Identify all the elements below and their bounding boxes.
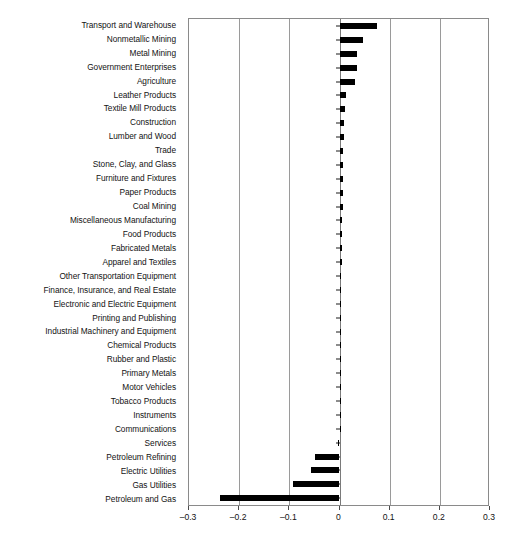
x-axis-tick [188, 506, 189, 510]
bar-row [189, 75, 488, 89]
bar-row [189, 47, 488, 61]
x-axis-tick [238, 506, 239, 510]
category-label: Finance, Insurance, and Real Estate [0, 283, 182, 297]
category-label: Government Enterprises [0, 60, 182, 74]
category-label: Apparel and Textiles [0, 255, 182, 269]
bar [340, 217, 343, 223]
bar-row [189, 394, 488, 408]
bar [340, 134, 344, 140]
bar-row [189, 408, 488, 422]
bar-row [189, 269, 488, 283]
category-label: Construction [0, 116, 182, 130]
bar [340, 287, 342, 293]
bar [340, 190, 343, 196]
bar-row [189, 144, 488, 158]
bar [340, 370, 341, 376]
category-label: Coal Mining [0, 199, 182, 213]
bar-row [189, 227, 488, 241]
category-label: Petroleum and Gas [0, 492, 182, 506]
bar [340, 245, 343, 251]
category-label: Petroleum Refining [0, 450, 182, 464]
bar [340, 120, 345, 126]
bar-row [189, 33, 488, 47]
bar-row [189, 116, 488, 130]
bar-row [189, 200, 488, 214]
category-label: Miscellaneous Manufacturing [0, 213, 182, 227]
bar-row [189, 186, 488, 200]
category-label: Tobacco Products [0, 394, 182, 408]
bar-row [189, 380, 488, 394]
category-label: Nonmetallic Mining [0, 32, 182, 46]
bar [340, 342, 341, 348]
category-label-column: Transport and WarehouseNonmetallic Minin… [0, 18, 182, 506]
category-label: Gas Utilities [0, 478, 182, 492]
bar-row [189, 283, 488, 297]
category-label: Services [0, 436, 182, 450]
category-label: Primary Metals [0, 366, 182, 380]
x-axis-tick-label: 0.2 [433, 512, 445, 522]
bar-row [189, 436, 488, 450]
bar-row [189, 88, 488, 102]
category-label: Motor Vehicles [0, 380, 182, 394]
bar-row [189, 366, 488, 380]
bar [340, 301, 342, 307]
bar [340, 65, 358, 71]
category-label: Stone, Clay, and Glass [0, 157, 182, 171]
category-label: Electronic and Electric Equipment [0, 297, 182, 311]
bar [340, 412, 341, 418]
bar [340, 204, 343, 210]
x-axis-tick-label: –0.3 [180, 512, 197, 522]
bar-row [189, 255, 488, 269]
bar-row [189, 213, 488, 227]
category-label: Communications [0, 422, 182, 436]
category-label: Transport and Warehouse [0, 18, 182, 32]
x-axis: –0.3–0.2–0.100.10.20.3 [188, 506, 489, 536]
category-label: Furniture and Fixtures [0, 171, 182, 185]
bar-row [189, 130, 488, 144]
bar-row [189, 297, 488, 311]
bar [340, 79, 355, 85]
category-label: Lumber and Wood [0, 130, 182, 144]
category-label: Rubber and Plastic [0, 353, 182, 367]
bars-layer [189, 19, 488, 505]
bar-row [189, 422, 488, 436]
bar-row [189, 61, 488, 75]
category-label: Metal Mining [0, 46, 182, 60]
category-label: Textile Mill Products [0, 102, 182, 116]
bar [340, 23, 378, 29]
x-axis-tick [339, 506, 340, 510]
bar-row [189, 102, 488, 116]
bar-row [189, 464, 488, 478]
bar [340, 398, 341, 404]
category-label: Trade [0, 143, 182, 157]
bar-row [189, 19, 488, 33]
category-label: Paper Products [0, 185, 182, 199]
x-axis-tick-label: 0 [336, 512, 341, 522]
bar [340, 106, 346, 112]
bar-row [189, 172, 488, 186]
bar [340, 162, 344, 168]
bar [340, 37, 364, 43]
bar [311, 467, 339, 473]
bar-row [189, 241, 488, 255]
category-label: Other Transportation Equipment [0, 269, 182, 283]
bar [340, 92, 346, 98]
bar [315, 454, 339, 460]
category-label: Agriculture [0, 74, 182, 88]
bar [340, 315, 341, 321]
bar-row [189, 352, 488, 366]
category-label: Electric Utilities [0, 464, 182, 478]
bar [293, 481, 340, 487]
x-axis-tick [389, 506, 390, 510]
x-axis-tick [288, 506, 289, 510]
x-axis-tick-label: 0.1 [383, 512, 395, 522]
bar-row [189, 491, 488, 505]
bar [340, 356, 341, 362]
bar [338, 440, 339, 446]
bar-row [189, 338, 488, 352]
bar-row [189, 325, 488, 339]
category-label: Chemical Products [0, 339, 182, 353]
bar [340, 426, 341, 432]
horizontal-bar-chart: Transport and WarehouseNonmetallic Minin… [0, 0, 506, 540]
bar-row [189, 158, 488, 172]
